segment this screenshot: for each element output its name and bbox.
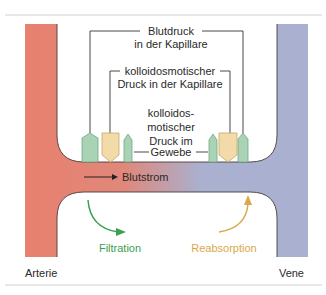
label-blood-pressure-2: in der Kapillare: [134, 38, 207, 50]
label-reabsorption: Reabsorption: [191, 242, 256, 254]
label-oncotic-tissue-1: kolloidos-: [148, 107, 195, 119]
capillary-diagram: Blutdruck in der Kapillare kolloidosmoti…: [0, 0, 326, 295]
label-oncotic-capillary-2: Druck in der Kapillare: [117, 78, 222, 90]
label-blood-flow: Blutstrom: [122, 171, 168, 183]
label-oncotic-tissue-2: motischer: [147, 121, 195, 133]
label-vein: Vene: [279, 267, 304, 279]
oncotic-capillary-glyph-left: [102, 133, 119, 162]
pressure-glyphs-venous: [209, 133, 248, 162]
pressure-glyphs-arterial: [82, 133, 132, 162]
blood-pressure-glyph-right: [238, 133, 248, 162]
oncotic-capillary-glyph-right: [219, 133, 237, 162]
label-artery: Arterie: [25, 267, 57, 279]
label-oncotic-tissue-4: Gewebe: [151, 146, 192, 158]
filtration-arrow-icon: [88, 200, 126, 236]
oncotic-tissue-glyph-left: [124, 134, 132, 162]
oncotic-tissue-glyph-right: [209, 134, 217, 162]
label-filtration: Filtration: [99, 242, 141, 254]
label-blood-pressure-1: Blutdruck: [148, 25, 194, 37]
label-oncotic-capillary-1: kolloidosmotischer: [125, 65, 216, 77]
reabsorption-arrow-icon: [219, 195, 252, 232]
blood-pressure-glyph-left: [82, 133, 98, 162]
